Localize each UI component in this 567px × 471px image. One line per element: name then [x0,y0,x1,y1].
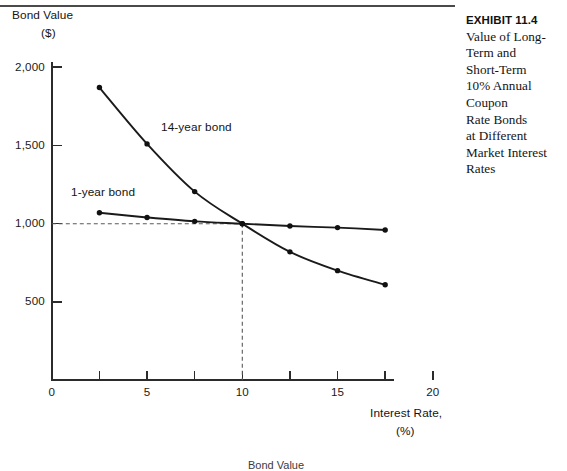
bottom-bleed-text: Bond Value [248,459,304,471]
data-point-marker [192,219,197,224]
data-point-marker [335,225,340,230]
exhibit-caption-line: Value of Long- [466,29,567,46]
exhibit-caption-line: Term and [466,45,567,62]
data-point-marker [335,268,340,273]
exhibit-number-label: EXHIBIT 11.4 [466,12,567,29]
exhibit-caption-line: Coupon [466,95,567,112]
data-point-marker [382,282,387,287]
data-point-marker [144,141,149,146]
chart-curves-layer [0,0,455,467]
data-point-marker [97,85,102,90]
data-point-marker [287,223,292,228]
data-point-marker [97,210,102,215]
reference-guide-lines [52,224,243,381]
exhibit-caption-line: Market Interest [466,145,567,162]
data-point-marker [287,249,292,254]
exhibit-caption-line: Rates [466,161,567,178]
data-point-marker [144,215,149,220]
exhibit-caption-text: Value of Long- Term and Short-Term 10% A… [466,29,567,178]
data-point-marker [192,189,197,194]
data-point-marker [240,221,245,226]
exhibit-caption-line: Rate Bonds [466,112,567,129]
exhibit-caption-line: Short-Term [466,62,567,79]
data-point-marker [382,227,387,232]
series-data-point-markers [97,85,388,288]
bond-value-chart: Bond Value ($) 2,0001,5001,000500 051015… [0,0,455,467]
exhibit-caption-line: at Different [466,128,567,145]
exhibit-caption-block: EXHIBIT 11.4 Value of Long- Term and Sho… [466,12,567,178]
exhibit-caption-line: 10% Annual [466,78,567,95]
